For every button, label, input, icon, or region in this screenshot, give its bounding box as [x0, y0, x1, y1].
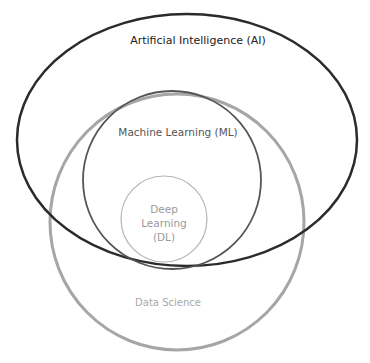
- ml-label: Machine Learning (ML): [118, 126, 238, 138]
- data-science-label: Data Science: [128, 297, 208, 308]
- dl-label-line-2: Learning: [124, 216, 204, 230]
- dl-label: Deep Learning (DL): [124, 202, 204, 244]
- venn-diagram: [0, 0, 370, 363]
- dl-label-line-1: Deep: [124, 202, 204, 216]
- ai-label: Artificial Intelligence (AI): [118, 34, 278, 47]
- dl-label-line-3: (DL): [124, 230, 204, 244]
